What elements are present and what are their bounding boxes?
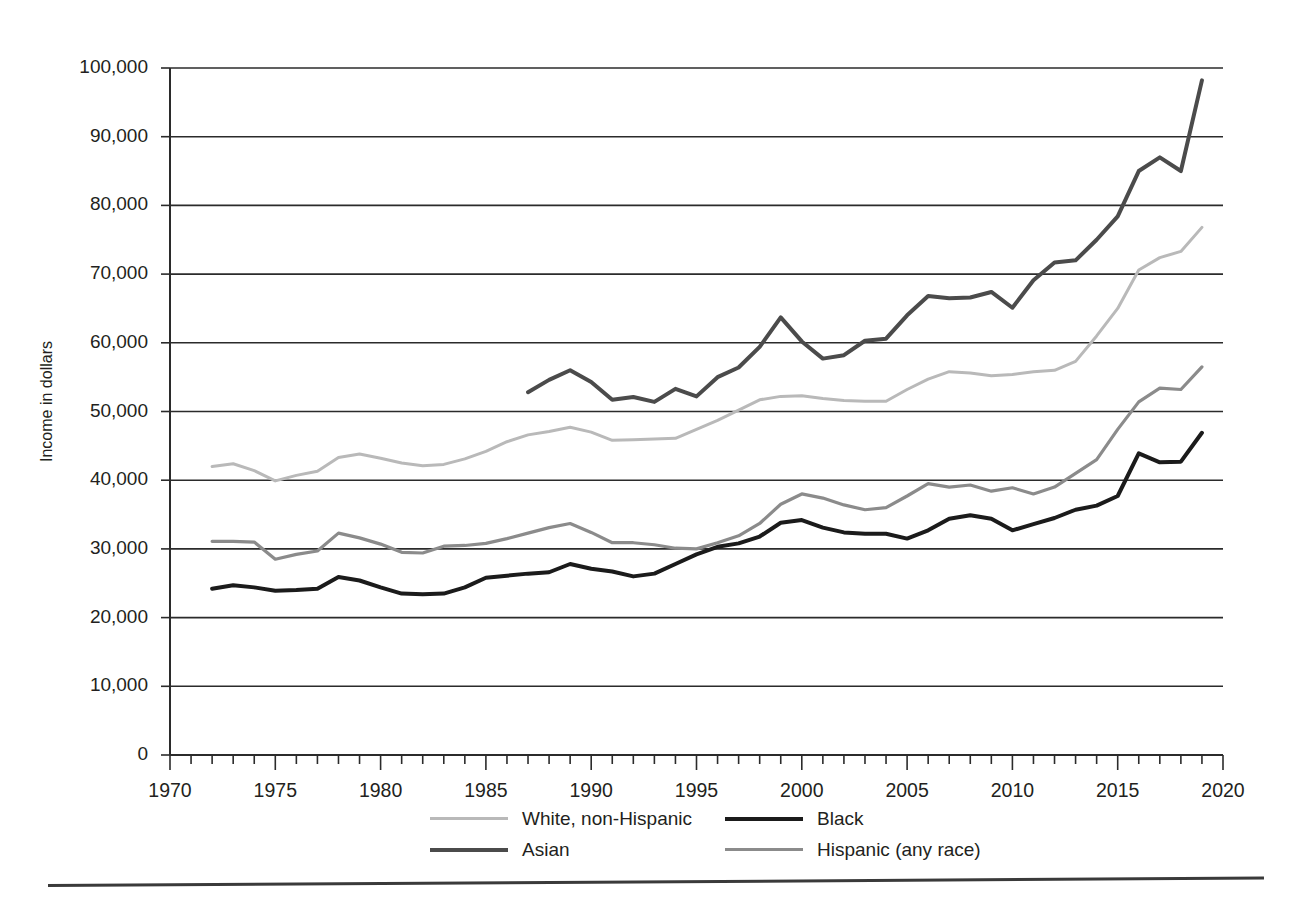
x-axis-tick-labels: 1970197519801985199019952000200520102015… [148,779,1245,800]
y-axis-title: Income in dollars [38,341,55,462]
legend-label-white-non-hispanic: White, non-Hispanic [522,809,692,828]
y-tick-label: 10,000 [90,674,148,695]
legend-item-asian: Asian [430,834,725,865]
legend-label-asian: Asian [522,840,570,859]
figure: 010,00020,00030,00040,00050,00060,00070,… [0,0,1296,911]
legend-row-2: Asian Hispanic (any race) [430,834,1090,865]
legend-swatch-hispanic [725,848,803,851]
legend-row-1: White, non-Hispanic Black [430,803,1090,834]
x-tick-label: 2020 [1201,779,1245,800]
series-line-black [212,433,1202,594]
y-tick-label: 30,000 [90,537,148,558]
y-tick-label: 40,000 [90,468,148,489]
chart-plot-area: 010,00020,00030,00040,00050,00060,00070,… [0,0,1296,800]
legend-swatch-asian [430,848,508,852]
line-chart: 010,00020,00030,00040,00050,00060,00070,… [0,0,1296,800]
x-tick-label: 1980 [359,779,403,800]
x-tick-label: 1975 [254,779,298,800]
x-tick-label: 2010 [991,779,1035,800]
legend-item-white-non-hispanic: White, non-Hispanic [430,803,725,834]
data-series-group [212,80,1202,594]
x-tick-label: 2000 [780,779,824,800]
gridlines-group [170,68,1223,755]
legend-swatch-black [725,817,803,821]
y-tick-label: 60,000 [90,331,148,352]
legend-item-hispanic: Hispanic (any race) [725,834,1085,865]
series-line-asian [528,80,1202,402]
legend-swatch-white-non-hispanic [430,817,508,820]
y-tick-marks-group [161,68,170,755]
y-tick-label: 20,000 [90,606,148,627]
series-line-hispanic-any-race [212,367,1202,559]
x-tick-marks-group [170,755,1223,770]
y-tick-label: 0 [137,743,148,764]
legend-item-black: Black [725,803,1085,834]
y-tick-label: 100,000 [79,56,148,77]
x-tick-label: 1990 [570,779,614,800]
y-axis-tick-labels: 010,00020,00030,00040,00050,00060,00070,… [79,56,148,764]
y-tick-label: 80,000 [90,193,148,214]
x-tick-label: 1970 [148,779,192,800]
x-tick-label: 1995 [675,779,719,800]
y-tick-label: 70,000 [90,262,148,283]
chart-legend: White, non-Hispanic Black Asian Hispanic… [430,803,1090,865]
legend-label-hispanic: Hispanic (any race) [817,840,981,859]
y-tick-label: 90,000 [90,125,148,146]
x-tick-label: 1985 [464,779,508,800]
legend-label-black: Black [817,809,863,828]
x-tick-label: 2015 [1096,779,1140,800]
x-tick-label: 2005 [885,779,929,800]
y-tick-label: 50,000 [90,400,148,421]
bottom-horizontal-rule [48,877,1264,887]
